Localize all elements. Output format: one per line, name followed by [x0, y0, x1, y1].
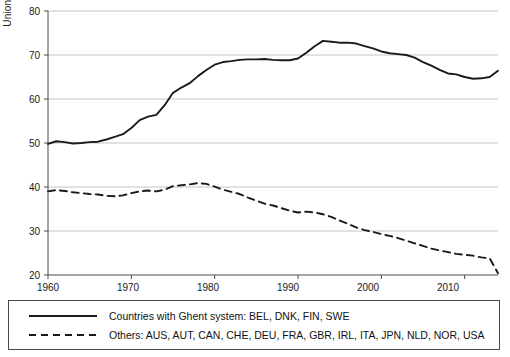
series-line-0: [48, 41, 498, 144]
legend-item-others: Others: AUS, AUT, CAN, CHE, DEU, FRA, GB…: [109, 329, 485, 341]
plot-area: [0, 0, 510, 300]
legend-swatches: [9, 301, 501, 351]
series-line-1: [48, 183, 498, 273]
legend-item-ghent: Countries with Ghent system: BEL, DNK, F…: [109, 310, 349, 322]
grid-lines: [48, 11, 498, 231]
data-series: [48, 41, 498, 273]
legend: Countries with Ghent system: BEL, DNK, F…: [8, 300, 500, 350]
axis-lines: [44, 11, 498, 279]
union-density-chart: Union density (in %) 80 70 60 50 40 30 2…: [0, 0, 510, 357]
